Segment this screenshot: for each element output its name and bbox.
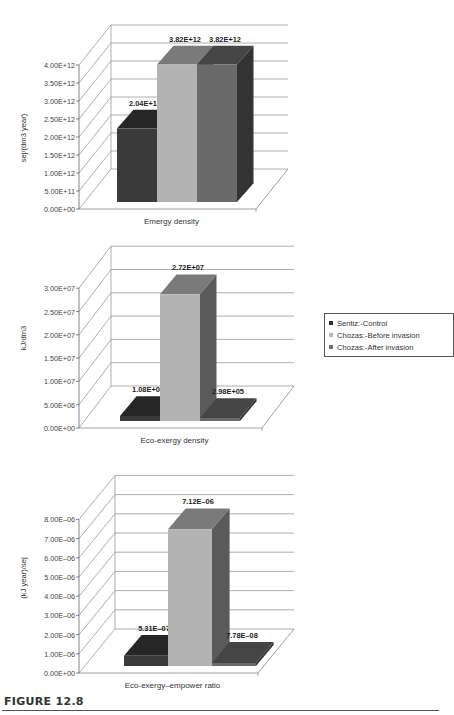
chart-2: 0.00E+005.00E+061.00E+071.50E+072.00E+07… [19, 246, 294, 445]
figure-label: FIGURE 12.8 [4, 695, 84, 708]
data-label: 5.31E–07 [138, 624, 170, 633]
y-tick-label: 6.00E–06 [44, 554, 75, 563]
y-tick-label: 2.50E+12 [44, 115, 75, 124]
bar-chozas-after-invasion: 3.82E+12 [197, 35, 254, 202]
chart-1: 0.00E+005.00E+111.00E+121.50E+122.00E+12… [19, 25, 288, 226]
data-label: 1.08E+06 [132, 385, 164, 394]
chart-3: 0.00E+001.00E–062.00E–063.00E–064.00E–06… [19, 475, 294, 690]
legend-swatch-icon [329, 333, 333, 337]
y-tick-label: 0.00E+00 [44, 424, 75, 433]
y-tick-label: 2.00E+12 [44, 133, 75, 142]
legend-swatch-icon [329, 321, 333, 325]
figure-rule [2, 710, 439, 711]
data-label: 2.72E+07 [172, 263, 204, 272]
legend-label: Sentiz:-Control [337, 319, 387, 328]
y-tick-label: 1.00E+12 [44, 169, 75, 178]
y-tick-label: 3.50E+12 [44, 79, 75, 88]
data-label: 2.04E+12 [129, 99, 161, 108]
y-tick-label: 2.00E+07 [44, 331, 75, 340]
legend: Sentiz:-Control Chozas:-Before invasion … [324, 313, 454, 357]
legend-swatch-icon [329, 345, 333, 349]
y-tick-label: 0.00E+00 [44, 669, 75, 678]
data-label: 3.82E+12 [209, 35, 241, 44]
y-tick-label: 1.00E–06 [44, 650, 75, 659]
y-axis-label: sej/(dm3 year) [19, 113, 28, 162]
legend-item-sentiz-control: Sentiz:-Control [329, 317, 449, 329]
y-tick-label: 1.00E+07 [44, 377, 75, 386]
y-tick-label: 5.00E+11 [45, 187, 75, 196]
y-tick-label: 2.00E–06 [44, 631, 75, 640]
y-tick-label: 8.00E–06 [44, 515, 75, 524]
y-axis-label: kJ/dm3 [19, 326, 28, 350]
y-tick-label: 3.00E+12 [44, 97, 75, 106]
y-tick-label: 4.00E–06 [44, 592, 75, 601]
y-tick-label: 3.00E+07 [44, 284, 75, 293]
y-tick-label: 2.50E+07 [44, 308, 75, 317]
data-label: 3.82E+12 [169, 35, 201, 44]
data-label: 2.98E+05 [212, 387, 244, 396]
x-axis-label: Eco-exergy–empower ratio [125, 681, 221, 690]
legend-label: Chozas:-After invasion [337, 343, 413, 352]
y-tick-label: 3.00E–06 [44, 611, 75, 620]
y-tick-label: 1.50E+07 [44, 354, 75, 363]
data-label: 7.78E–08 [226, 631, 258, 640]
y-tick-label: 7.00E–06 [44, 535, 75, 544]
data-label: 7.12E–06 [182, 497, 214, 506]
legend-item-chozas-after: Chozas:-After invasion [329, 341, 449, 353]
legend-label: Chozas:-Before invasion [337, 331, 420, 340]
y-axis-label: (kJ year)/sej [19, 557, 28, 599]
bar-chozas-before-invasion: 7.12E–06 [168, 497, 230, 666]
x-axis-label: Eco-exergy density [140, 436, 208, 445]
y-tick-label: 4.00E+12 [44, 61, 75, 70]
x-axis-label: Emergy density [144, 217, 199, 226]
bar-chozas-before-invasion: 2.72E+07 [160, 263, 217, 421]
y-tick-label: 0.00E+00 [44, 205, 75, 214]
legend-item-chozas-before: Chozas:-Before invasion [329, 329, 449, 341]
y-tick-label: 1.50E+12 [44, 151, 75, 160]
y-tick-label: 5.00E+06 [44, 401, 75, 410]
y-tick-label: 5.00E–06 [44, 573, 75, 582]
